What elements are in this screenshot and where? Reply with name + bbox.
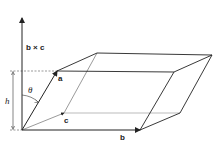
parallelepiped-diagram: b × c a c b θ h xyxy=(0,0,221,152)
label-b: b xyxy=(120,133,125,142)
edge-ac-abc xyxy=(97,53,212,55)
label-h: h xyxy=(5,96,10,106)
edge-a-ac xyxy=(57,53,97,71)
edge-ab-abc xyxy=(174,55,212,72)
label-b-cross-c: b × c xyxy=(26,43,45,52)
label-theta: θ xyxy=(28,85,33,95)
hidden-edge-c-ac xyxy=(64,53,97,113)
edge-bc-abc xyxy=(180,55,212,113)
edge-b-bc xyxy=(140,113,180,130)
edge-b-ab xyxy=(140,72,174,130)
theta-arc xyxy=(22,95,38,102)
edge-a-ab xyxy=(57,71,174,72)
vector-c xyxy=(22,113,64,130)
label-a: a xyxy=(58,74,63,83)
vector-a xyxy=(22,71,57,130)
label-c: c xyxy=(64,116,69,125)
